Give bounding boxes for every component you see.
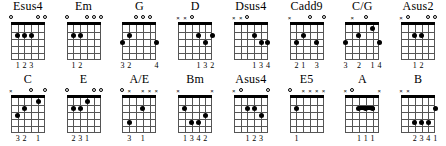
circle-icon — [92, 88, 96, 92]
finger-dot — [203, 113, 208, 118]
fret-line — [122, 46, 156, 47]
circle-icon — [43, 15, 47, 19]
fretboard — [234, 22, 268, 60]
open-mute-markers: ×××× — [290, 87, 324, 95]
chord-diagram[interactable]: A××111 — [335, 73, 391, 146]
string-line — [310, 25, 311, 60]
finger-dot — [127, 120, 132, 125]
finger-dot — [419, 120, 424, 125]
fret-grid — [122, 98, 156, 133]
fret-line — [67, 46, 101, 47]
circle-icon — [350, 88, 354, 92]
finger-number: 1 — [292, 134, 300, 144]
chord-diagram[interactable]: D××132 — [167, 0, 223, 73]
open-string-icon — [264, 87, 271, 92]
fretboard — [11, 22, 45, 60]
chord-diagram[interactable]: Dsus4××134 — [223, 0, 279, 73]
chord-diagram[interactable]: C×321 — [0, 73, 56, 146]
open-string-icon — [63, 14, 70, 19]
muted-string-icon: × — [126, 87, 133, 94]
fretboard — [401, 22, 435, 60]
string-line — [178, 25, 179, 60]
string-line — [94, 25, 95, 60]
finger-dot — [78, 33, 83, 38]
fret-line — [67, 126, 101, 127]
chord-diagram[interactable]: E5××××1 — [279, 73, 335, 146]
open-mute-markers — [67, 87, 101, 95]
string-line — [80, 98, 81, 133]
fret-line — [345, 126, 379, 127]
fingering-row: 1 — [287, 134, 327, 146]
string-line — [415, 25, 416, 60]
fretboard — [345, 95, 379, 133]
fretboard — [178, 22, 212, 60]
finger-number: 3 — [313, 61, 321, 71]
finger-dot — [36, 99, 41, 104]
fret-line — [67, 132, 101, 133]
fret-grid — [401, 25, 435, 60]
fingering-row: 31 — [119, 134, 159, 146]
chord-diagram[interactable]: Bm××1342 — [167, 73, 223, 146]
chord-diagram[interactable]: A/E××××31 — [112, 73, 168, 146]
fretboard — [401, 95, 435, 133]
open-mute-markers: ×× — [178, 87, 212, 95]
circle-icon — [92, 15, 96, 19]
circle-icon — [120, 88, 124, 92]
string-line — [247, 25, 248, 60]
finger-number: 4 — [375, 61, 383, 71]
string-line — [401, 98, 402, 133]
string-line — [267, 98, 268, 133]
string-line — [18, 25, 19, 60]
fret-line — [234, 119, 268, 120]
fret-line — [67, 53, 101, 54]
finger-number: 3 — [125, 134, 133, 144]
chord-diagram[interactable]: Em12 — [56, 0, 112, 73]
finger-number: 2 — [355, 61, 363, 71]
string-line — [100, 25, 101, 60]
string-line — [434, 25, 435, 60]
open-mute-markers: × — [290, 14, 324, 22]
circle-icon — [364, 15, 368, 19]
fret-line — [345, 119, 379, 120]
finger-dot — [301, 33, 306, 38]
finger-number: 4 — [264, 61, 272, 71]
chord-diagram[interactable]: Cadd9×213 — [279, 0, 335, 73]
string-line — [136, 98, 137, 133]
chord-diagram[interactable]: Asus2×12 — [390, 0, 446, 73]
fret-line — [234, 46, 268, 47]
fingering-row: 231 — [64, 134, 104, 146]
fret-line — [178, 59, 212, 60]
open-string-icon — [307, 14, 314, 19]
circle-icon — [322, 15, 326, 19]
circle-icon — [148, 15, 152, 19]
open-string-icon — [237, 87, 244, 92]
chord-diagram[interactable]: G324 — [112, 0, 168, 73]
guitar-chord-chart: Esus4123Em12G324D××132Dsus4××134Cadd9×21… — [0, 0, 446, 146]
open-string-icon — [41, 14, 48, 19]
chord-diagram[interactable]: Asus4×123 — [223, 73, 279, 146]
open-string-icon — [320, 14, 327, 19]
string-line — [373, 98, 374, 133]
fret-line — [178, 46, 212, 47]
fret-line — [178, 53, 212, 54]
fret-line — [290, 112, 324, 113]
finger-dot — [196, 33, 201, 38]
fret-line — [401, 53, 435, 54]
finger-dot — [22, 33, 27, 38]
open-mute-markers: ×× — [345, 87, 379, 95]
chord-diagram[interactable]: Esus4123 — [0, 0, 56, 73]
chord-diagram[interactable]: C/G×3214 — [335, 0, 391, 73]
circle-icon — [9, 15, 13, 19]
chord-diagram[interactable]: B××2341 — [390, 73, 446, 146]
string-line — [366, 25, 367, 60]
fret-line — [178, 119, 212, 120]
string-line — [359, 98, 360, 133]
finger-dot — [196, 120, 201, 125]
chord-name: Em — [75, 0, 92, 14]
open-string-icon — [286, 87, 293, 92]
string-line — [359, 25, 360, 60]
chord-diagram[interactable]: E231 — [56, 73, 112, 146]
circle-icon — [406, 15, 410, 19]
string-line — [129, 25, 130, 60]
string-line — [178, 98, 179, 133]
